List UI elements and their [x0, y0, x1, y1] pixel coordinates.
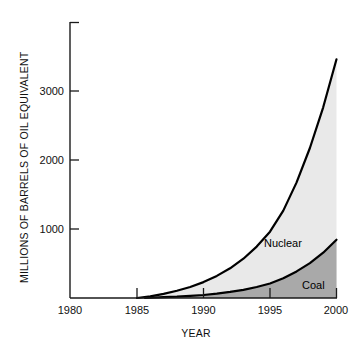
- coal-series-label: Coal: [302, 279, 325, 291]
- chart-figure: 3000 2000 1000 1980 1985 1990 1995 2000 …: [0, 0, 360, 356]
- y-tick-label-1000: 1000: [40, 223, 64, 235]
- x-tick-label-2000: 2000: [324, 304, 348, 316]
- y-tick-label-3000: 3000: [40, 85, 64, 97]
- plot-area: [137, 59, 337, 298]
- area-chart: 3000 2000 1000 1980 1985 1990 1995 2000 …: [0, 0, 360, 356]
- x-tick-label-1995: 1995: [258, 304, 282, 316]
- x-tick-label-1990: 1990: [191, 304, 215, 316]
- x-tick-label-1980: 1980: [58, 304, 82, 316]
- x-axis-title: YEAR: [181, 327, 211, 339]
- nuclear-series-label: Nuclear: [264, 237, 302, 249]
- y-tick-label-2000: 2000: [40, 154, 64, 166]
- x-tick-label-1985: 1985: [125, 304, 149, 316]
- y-axis-title: MILLIONS OF BARRELS OF OIL EQUIVALENT: [18, 51, 30, 283]
